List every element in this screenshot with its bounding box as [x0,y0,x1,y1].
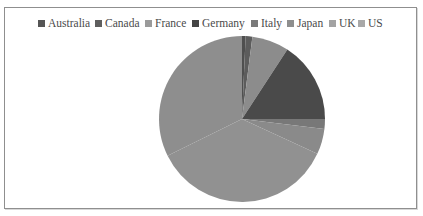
pie-slices [159,36,325,202]
pie-chart [0,0,423,216]
